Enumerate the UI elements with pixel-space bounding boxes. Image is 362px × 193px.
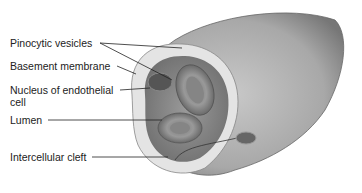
label-intercellular-cleft: Intercellular cleft — [10, 151, 86, 163]
label-basement-membrane: Basement membrane — [10, 60, 110, 72]
label-nucleus-endothelial: Nucleus of endothelial — [10, 84, 113, 96]
label-lumen: Lumen — [10, 114, 42, 126]
capillary-illustration — [0, 0, 362, 193]
label-nucleus-cell: cell — [10, 96, 26, 108]
label-pinocytic-vesicles: Pinocytic vesicles — [10, 37, 92, 49]
